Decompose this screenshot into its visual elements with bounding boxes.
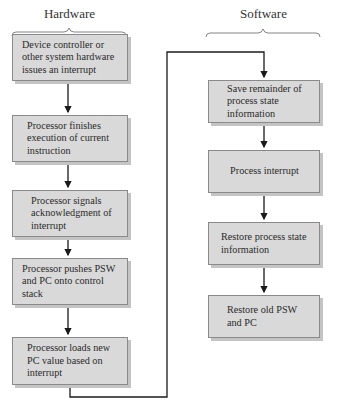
software-brace: [206, 29, 320, 37]
hardware-step-3: Processor signals acknowledgment of inte…: [12, 190, 128, 237]
hardware-step-5: Processor loads new PC value based on in…: [12, 337, 128, 385]
software-step-4: Restore old PSW and PC: [208, 295, 320, 338]
hardware-step-1: Device controller or other system hardwa…: [12, 34, 128, 81]
hardware-step-2: Processor finishes execution of current …: [12, 115, 128, 162]
software-step-1: Save remainder of process state informat…: [208, 80, 320, 123]
software-step-3: Restore process state information: [208, 222, 320, 265]
hardware-heading: Hardware: [12, 6, 127, 22]
software-heading: Software: [206, 6, 321, 22]
software-step-2: Process interrupt: [208, 150, 320, 193]
hardware-step-4: Processor pushes PSW and PC onto control…: [12, 258, 128, 305]
